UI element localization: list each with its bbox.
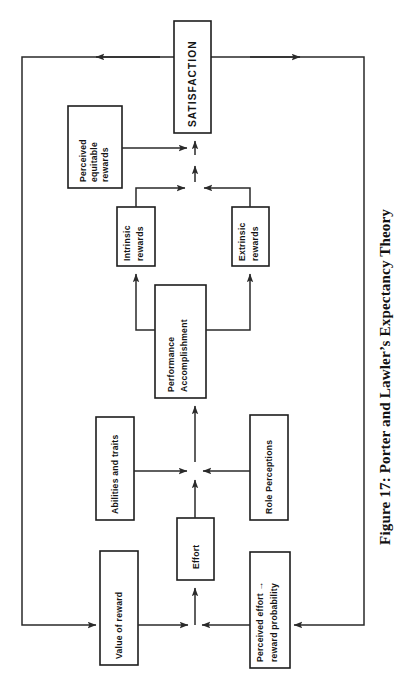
node-perceived-equitable-rewards-label-line2: equitable xyxy=(89,142,99,182)
node-performance-accomplishment-label-line2: Accomplishment xyxy=(179,319,189,392)
node-effort: Effort xyxy=(177,518,214,580)
node-performance-accomplishment: Performance Accomplishment xyxy=(155,285,206,398)
expectancy-theory-diagram: SATISFACTION Perceived equitable rewards… xyxy=(0,0,406,688)
node-perceived-effort-reward-probability-label-line1: Perceived effort → xyxy=(255,582,265,662)
node-extrinsic-rewards-label-line1: Extrinsic xyxy=(237,222,247,261)
node-intrinsic-rewards-label-line2: rewards xyxy=(135,226,145,261)
node-perceived-effort-reward-probability: Perceived effort → reward probability xyxy=(250,552,290,668)
node-satisfaction-label: SATISFACTION xyxy=(187,40,198,127)
node-extrinsic-rewards: Extrinsic rewards xyxy=(232,207,269,266)
node-performance-accomplishment-label-line1: Performance xyxy=(166,337,176,392)
figure-container: SATISFACTION Perceived equitable rewards… xyxy=(0,0,406,688)
node-perceived-equitable-rewards-label-line3: rewards xyxy=(100,147,110,182)
node-role-perceptions-label: Role Perceptions xyxy=(264,440,274,514)
edge-satisfaction-feedback-to-perceived-effort-prob xyxy=(211,57,364,625)
edge-extrinsic-to-satisfaction xyxy=(204,188,250,207)
node-perceived-equitable-rewards-label-line1: Perceived xyxy=(78,139,88,182)
node-intrinsic-rewards: Intrinsic rewards xyxy=(117,207,155,266)
node-perceived-effort-reward-probability-label-line2: reward probability xyxy=(269,583,279,662)
node-abilities-and-traits: Abilities and traits xyxy=(96,417,134,520)
edge-intrinsic-to-satisfaction xyxy=(136,188,185,207)
node-role-perceptions: Role Perceptions xyxy=(250,415,288,520)
edge-performance-to-intrinsic xyxy=(136,274,155,330)
node-perceived-equitable-rewards: Perceived equitable rewards xyxy=(68,106,122,188)
edge-performance-to-extrinsic xyxy=(206,274,250,330)
node-intrinsic-rewards-label-line1: Intrinsic xyxy=(122,225,132,261)
node-abilities-and-traits-label: Abilities and traits xyxy=(110,435,120,515)
figure-caption: Figure 17: Porter and Lawler’s Expectanc… xyxy=(376,209,393,545)
node-value-of-reward: Value of reward xyxy=(100,551,138,665)
node-satisfaction: SATISFACTION xyxy=(174,21,211,133)
node-value-of-reward-label: Value of reward xyxy=(114,592,124,659)
node-effort-label: Effort xyxy=(191,545,201,569)
node-extrinsic-rewards-label-line2: rewards xyxy=(250,226,260,261)
